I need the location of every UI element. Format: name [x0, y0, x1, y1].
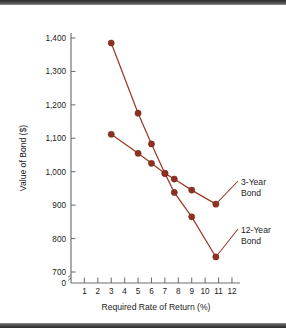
y-tick-label: 1,300 — [46, 67, 67, 76]
figure-frame: 7008009001,0001,1001,2001,3001,400 0 123… — [0, 0, 286, 328]
y-tick-label: 700 — [52, 268, 66, 277]
x-tick-label: 10 — [201, 287, 211, 296]
chart-canvas: 7008009001,0001,1001,2001,3001,400 0 123… — [0, 5, 286, 323]
y-tick-label: 1,200 — [46, 101, 67, 110]
x-tick-label: 4 — [122, 287, 127, 296]
x-tick-label: 9 — [189, 287, 194, 296]
data-point — [148, 160, 154, 166]
x-axis-title: Required Rate of Return (%) — [102, 302, 211, 312]
x-tick-label: 12 — [227, 287, 237, 296]
x-tick-label: 7 — [163, 287, 168, 296]
x-tick-label: 1 — [82, 287, 87, 296]
y-axis-title: Value of Bond ($) — [18, 125, 28, 191]
y-tick-label: 1,100 — [46, 134, 67, 143]
x-axis-ticks — [84, 278, 232, 284]
series-label-3-year-line2: Bond — [241, 188, 261, 198]
series-line-12-year — [111, 43, 216, 257]
y-axis-group: 7008009001,0001,1001,2001,3001,400 0 — [46, 33, 76, 288]
bottom-edge-band — [0, 323, 286, 328]
y-axis-ticks — [71, 38, 76, 272]
x-tick-label: 8 — [176, 287, 181, 296]
y-tick-label: 1,000 — [46, 168, 67, 177]
series-label-3-year-line1: 3-Year — [241, 177, 266, 187]
y-axis-origin-label: 0 — [61, 279, 66, 288]
data-point — [148, 141, 154, 147]
data-point — [189, 214, 195, 220]
series-label-3-year: 3-Year Bond — [241, 177, 266, 198]
series-leader-line — [216, 181, 238, 204]
data-point — [189, 187, 195, 193]
x-tick-label: 3 — [109, 287, 114, 296]
series-points — [108, 40, 219, 260]
y-axis-tick-labels: 7008009001,0001,1001,2001,3001,400 — [46, 34, 67, 277]
series-label-12-year-line2: Bond — [241, 236, 261, 246]
series-leaders — [216, 181, 238, 257]
y-tick-label: 800 — [52, 235, 66, 244]
x-axis-tick-labels: 123456789101112 — [82, 287, 237, 296]
bond-value-line-chart: 7008009001,0001,1001,2001,3001,400 0 123… — [0, 5, 286, 323]
data-point — [135, 150, 141, 156]
x-axis-group: 123456789101112 — [71, 278, 240, 297]
series-label-12-year: 12-Year Bond — [241, 225, 271, 246]
data-point — [135, 110, 141, 116]
y-tick-label: 1,400 — [46, 34, 67, 43]
data-point — [171, 176, 177, 182]
data-point — [108, 131, 114, 137]
x-tick-label: 5 — [136, 287, 141, 296]
data-point — [162, 170, 168, 176]
y-tick-label: 900 — [52, 201, 66, 210]
series-label-12-year-line1: 12-Year — [241, 225, 271, 235]
x-tick-label: 2 — [96, 287, 101, 296]
data-point — [108, 40, 114, 46]
x-tick-label: 6 — [149, 287, 154, 296]
series-leader-line — [216, 229, 238, 257]
x-tick-label: 11 — [214, 287, 223, 296]
data-point — [171, 189, 177, 195]
series-lines — [111, 43, 216, 257]
